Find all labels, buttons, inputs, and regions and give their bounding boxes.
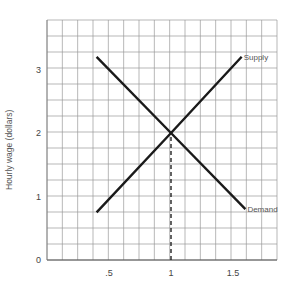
y-tick-label: 1 xyxy=(36,192,41,202)
grid xyxy=(47,20,277,260)
demand-label: Demand xyxy=(247,205,277,214)
x-tick-label: 1.5 xyxy=(227,268,240,278)
y-tick-label: 2 xyxy=(36,128,41,138)
y-tick-label: 3 xyxy=(36,65,41,75)
y-axis-label: Hourly wage (dollars) xyxy=(4,110,14,190)
x-tick-label: 1 xyxy=(168,268,173,278)
supply-demand-chart: 0123.511.5 SupplyDemand Hourly wage (dol… xyxy=(0,0,292,286)
y-tick-label: 0 xyxy=(36,255,41,265)
supply-label: Supply xyxy=(244,53,268,62)
x-tick-label: .5 xyxy=(105,268,113,278)
labels: SupplyDemand xyxy=(244,53,278,214)
